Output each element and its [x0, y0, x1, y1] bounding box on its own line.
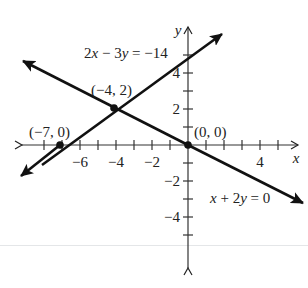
y-tick-label: 2 [173, 101, 181, 117]
point-0-0 [184, 141, 192, 149]
point-label-0-0: (0, 0) [194, 124, 227, 141]
point-neg7-0 [56, 141, 64, 149]
point-label-neg7-0: (−7, 0) [29, 124, 70, 141]
y-tick-label: −2 [164, 173, 180, 189]
line-2x-minus-3y-eq-neg14-tail [21, 145, 60, 176]
x-tick-label: −6 [72, 154, 88, 170]
x-axis-label: x [292, 150, 300, 166]
x-tick-label: −2 [144, 154, 160, 170]
graph-canvas: −6 −4 −2 4 x 4 2 −2 −4 y (−7, [0, 0, 308, 288]
y-axis-label: y [173, 22, 182, 38]
equation-label-line2: x + 2y = 0 [209, 190, 270, 206]
x-tick-label: −4 [108, 154, 124, 170]
point-label-neg4-2: (−4, 2) [91, 82, 132, 99]
equation-label-line1: 2x − 3y = −14 [84, 45, 168, 61]
point-neg4-2 [110, 104, 118, 112]
x-tick-label: 4 [256, 154, 264, 170]
y-tick-label: −4 [164, 209, 180, 225]
